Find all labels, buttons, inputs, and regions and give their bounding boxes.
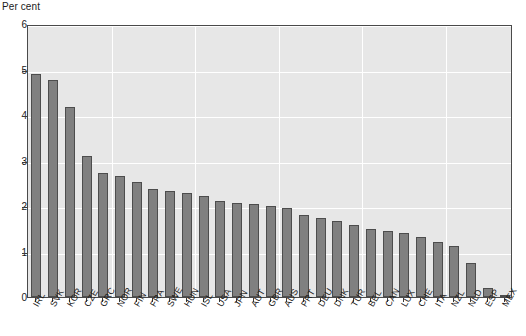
bar — [433, 242, 443, 297]
y-axis-tick-mark — [22, 253, 27, 254]
y-axis-tick-label: 6 — [7, 20, 27, 30]
bar — [232, 203, 242, 297]
y-axis-tick-mark — [22, 207, 27, 208]
gridline-horizontal — [28, 72, 511, 73]
bar — [65, 107, 75, 297]
bar-chart: Per cent 0123456 IRLSVKKORCZEGRCNORFINFR… — [0, 0, 526, 336]
gridline-vertical — [279, 26, 280, 297]
bar — [48, 80, 58, 297]
bar — [316, 218, 326, 297]
bar — [366, 229, 376, 297]
bar — [282, 208, 292, 297]
gridline-horizontal — [28, 117, 511, 118]
bar — [299, 215, 309, 297]
y-axis-tick-mark — [22, 162, 27, 163]
gridline-vertical — [195, 26, 196, 297]
gridline-horizontal — [28, 26, 511, 27]
y-axis-tick-mark — [22, 71, 27, 72]
bar — [132, 182, 142, 297]
bar — [383, 231, 393, 297]
bar — [115, 176, 125, 297]
gridline-vertical — [112, 26, 113, 297]
bar — [266, 206, 276, 297]
bar — [98, 173, 108, 297]
bar — [31, 74, 41, 297]
gridline-vertical — [362, 26, 363, 297]
bar — [182, 193, 192, 297]
bar — [148, 189, 158, 297]
bar — [215, 201, 225, 297]
y-axis: 0123456 — [0, 0, 27, 336]
y-axis-tick-mark — [22, 116, 27, 117]
bar — [249, 204, 259, 297]
bar — [332, 221, 342, 297]
bar — [199, 196, 209, 297]
bar — [165, 191, 175, 297]
gridline-vertical — [446, 26, 447, 297]
bar — [82, 156, 92, 297]
y-axis-tick-label: 0 — [7, 293, 27, 303]
plot-area — [27, 25, 512, 298]
gridline-horizontal — [28, 163, 511, 164]
